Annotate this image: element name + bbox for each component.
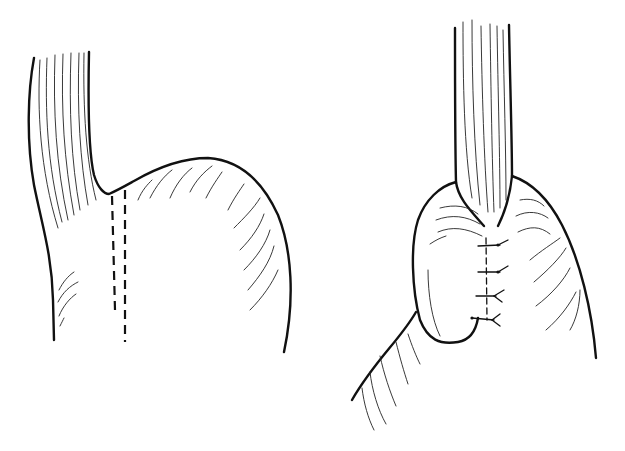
right-panel-fundoplication [352,20,596,430]
suture-stitch [476,290,504,302]
left-panel-esophagus-stomach [29,52,291,352]
lower-stomach-hatching [362,334,420,430]
suture-stitch [478,266,508,274]
wrap-hatching [428,199,580,336]
stomach-hatching-left [58,272,78,326]
illustration-canvas [0,0,625,451]
esophagus-fibers-right [463,20,506,212]
suture-stitch [470,314,500,326]
stomach-hatching-right [138,166,278,310]
suture-stitch [478,240,508,247]
incision-line-left [112,196,115,310]
suture-line [470,238,508,326]
